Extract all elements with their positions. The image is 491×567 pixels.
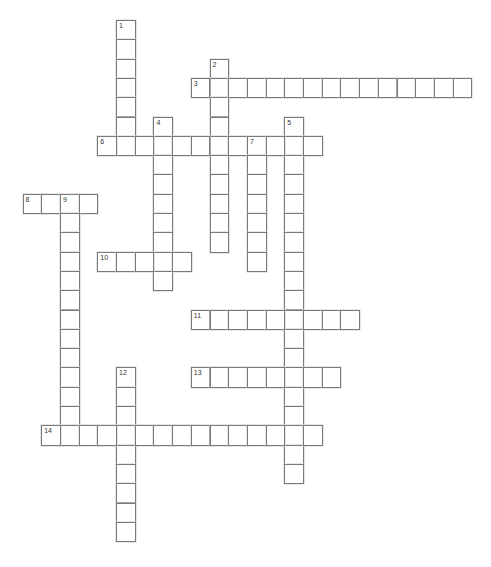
crossword-cell[interactable]: [191, 425, 211, 445]
crossword-cell[interactable]: [266, 78, 286, 98]
crossword-cell[interactable]: [116, 483, 136, 503]
crossword-cell[interactable]: 11: [191, 310, 211, 330]
crossword-cell[interactable]: [434, 78, 454, 98]
crossword-cell[interactable]: [210, 310, 230, 330]
crossword-cell[interactable]: [60, 290, 80, 310]
crossword-cell[interactable]: [210, 425, 230, 445]
crossword-cell[interactable]: [322, 310, 342, 330]
crossword-cell[interactable]: [284, 310, 304, 330]
crossword-cell[interactable]: [116, 425, 136, 445]
crossword-cell[interactable]: 1: [116, 20, 136, 40]
crossword-cell[interactable]: [359, 78, 379, 98]
crossword-cell[interactable]: [415, 78, 435, 98]
crossword-cell[interactable]: [153, 136, 173, 156]
crossword-cell[interactable]: [116, 503, 136, 523]
crossword-cell[interactable]: [210, 232, 230, 252]
crossword-cell[interactable]: [210, 213, 230, 233]
crossword-cell[interactable]: [172, 136, 192, 156]
crossword-cell[interactable]: [284, 194, 304, 214]
crossword-cell[interactable]: [284, 78, 304, 98]
crossword-cell[interactable]: 7: [247, 136, 267, 156]
crossword-cell[interactable]: [60, 213, 80, 233]
crossword-cell[interactable]: [60, 310, 80, 330]
crossword-cell[interactable]: [153, 194, 173, 214]
crossword-cell[interactable]: [228, 78, 248, 98]
crossword-cell[interactable]: 12: [116, 367, 136, 387]
crossword-cell[interactable]: [284, 213, 304, 233]
crossword-cell[interactable]: 4: [153, 117, 173, 137]
crossword-cell[interactable]: [116, 387, 136, 407]
crossword-cell[interactable]: [172, 425, 192, 445]
crossword-cell[interactable]: [284, 445, 304, 465]
crossword-cell[interactable]: [453, 78, 473, 98]
crossword-cell[interactable]: [172, 252, 192, 272]
crossword-cell[interactable]: 3: [191, 78, 211, 98]
crossword-cell[interactable]: [247, 310, 267, 330]
crossword-cell[interactable]: [60, 425, 80, 445]
crossword-cell[interactable]: 9: [60, 194, 80, 214]
crossword-cell[interactable]: [153, 213, 173, 233]
crossword-cell[interactable]: [266, 367, 286, 387]
crossword-cell[interactable]: [284, 425, 304, 445]
crossword-cell[interactable]: [303, 425, 323, 445]
crossword-cell[interactable]: [340, 310, 360, 330]
crossword-cell[interactable]: [284, 329, 304, 349]
crossword-cell[interactable]: [60, 252, 80, 272]
crossword-cell[interactable]: [116, 406, 136, 426]
crossword-cell[interactable]: [135, 252, 155, 272]
crossword-cell[interactable]: [210, 136, 230, 156]
crossword-cell[interactable]: [284, 155, 304, 175]
crossword-cell[interactable]: [210, 97, 230, 117]
crossword-cell[interactable]: [284, 136, 304, 156]
crossword-cell[interactable]: [303, 310, 323, 330]
crossword-cell[interactable]: [116, 252, 136, 272]
crossword-cell[interactable]: [153, 155, 173, 175]
crossword-cell[interactable]: [60, 329, 80, 349]
crossword-cell[interactable]: [116, 97, 136, 117]
crossword-cell[interactable]: 8: [23, 194, 43, 214]
crossword-cell[interactable]: 10: [97, 252, 117, 272]
crossword-cell[interactable]: [247, 367, 267, 387]
crossword-cell[interactable]: [303, 78, 323, 98]
crossword-cell[interactable]: [116, 136, 136, 156]
crossword-cell[interactable]: [284, 387, 304, 407]
crossword-cell[interactable]: [228, 310, 248, 330]
crossword-cell[interactable]: [247, 425, 267, 445]
crossword-cell[interactable]: [60, 232, 80, 252]
crossword-cell[interactable]: [41, 194, 61, 214]
crossword-cell[interactable]: [247, 232, 267, 252]
crossword-cell[interactable]: [247, 194, 267, 214]
crossword-cell[interactable]: 14: [41, 425, 61, 445]
crossword-cell[interactable]: [228, 425, 248, 445]
crossword-cell[interactable]: [191, 136, 211, 156]
crossword-cell[interactable]: [116, 464, 136, 484]
crossword-cell[interactable]: [284, 367, 304, 387]
crossword-cell[interactable]: [79, 425, 99, 445]
crossword-cell[interactable]: [135, 136, 155, 156]
crossword-cell[interactable]: [284, 348, 304, 368]
crossword-cell[interactable]: [79, 194, 99, 214]
crossword-cell[interactable]: [60, 271, 80, 291]
crossword-cell[interactable]: [153, 232, 173, 252]
crossword-cell[interactable]: [116, 78, 136, 98]
crossword-cell[interactable]: [153, 271, 173, 291]
crossword-cell[interactable]: [97, 425, 117, 445]
crossword-cell[interactable]: [247, 78, 267, 98]
crossword-cell[interactable]: [135, 425, 155, 445]
crossword-cell[interactable]: [116, 522, 136, 542]
crossword-cell[interactable]: [397, 78, 417, 98]
crossword-cell[interactable]: [153, 174, 173, 194]
crossword-cell[interactable]: [60, 406, 80, 426]
crossword-cell[interactable]: [266, 425, 286, 445]
crossword-cell[interactable]: [210, 174, 230, 194]
crossword-cell[interactable]: [284, 271, 304, 291]
crossword-cell[interactable]: 2: [210, 59, 230, 79]
crossword-cell[interactable]: [284, 290, 304, 310]
crossword-cell[interactable]: [303, 136, 323, 156]
crossword-cell[interactable]: [322, 367, 342, 387]
crossword-cell[interactable]: [247, 174, 267, 194]
crossword-cell[interactable]: [228, 136, 248, 156]
crossword-cell[interactable]: [210, 367, 230, 387]
crossword-cell[interactable]: 13: [191, 367, 211, 387]
crossword-cell[interactable]: [210, 155, 230, 175]
